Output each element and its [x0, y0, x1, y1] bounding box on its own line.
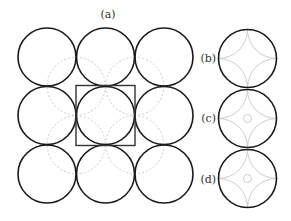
- corner-arc: [190, 61, 248, 119]
- corner-arc: [190, 119, 248, 177]
- lattice-circle: [77, 28, 135, 86]
- interstitial-site: [244, 175, 252, 183]
- lattice-circle: [77, 87, 135, 145]
- packing-diagram: (a) (b) (c) (d): [0, 0, 290, 220]
- unit-circle: [219, 30, 277, 88]
- panel-d-figure: [190, 121, 291, 221]
- panel-d-label: (d): [200, 173, 216, 186]
- lattice-circle: [135, 87, 193, 145]
- panel-right-column: (b) (c) (d): [190, 1, 291, 221]
- lattice-circle: [135, 28, 193, 86]
- lattice-circle: [18, 145, 76, 203]
- lattice-circle: [135, 145, 193, 203]
- lattice-circle: [77, 145, 135, 203]
- unit-circle: [219, 150, 277, 208]
- unit-circle: [219, 90, 277, 148]
- corner-arc: [190, 1, 248, 59]
- panel-b-label: (b): [200, 52, 216, 65]
- lattice-circle: [18, 87, 76, 145]
- corner-arc: [190, 121, 248, 179]
- panel-a-grid: [18, 28, 193, 203]
- lattice-circle: [18, 28, 76, 86]
- corner-arc: [190, 59, 248, 117]
- panel-a-label: (a): [100, 8, 115, 21]
- panel-c-label: (c): [201, 112, 216, 125]
- interstitial-site: [244, 115, 252, 123]
